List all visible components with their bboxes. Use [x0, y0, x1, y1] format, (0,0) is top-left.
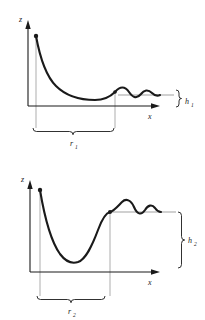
- z-axis-arrowhead-top: [25, 20, 30, 29]
- x-axis-arrowhead-bottom: [151, 269, 160, 274]
- h2-label: h: [188, 236, 192, 245]
- curve-top: [36, 36, 160, 100]
- h2-label-subscript: 2: [194, 241, 197, 247]
- start-point-marker-top: [34, 34, 38, 38]
- r2-label-subscript: 2: [73, 312, 76, 318]
- x-axis-arrowhead-top: [151, 103, 160, 108]
- panel-top: z x h 1 r 1: [18, 15, 194, 150]
- h2-brace: [178, 212, 185, 268]
- z-axis-arrowhead-bottom: [27, 180, 32, 189]
- r2-brace: [37, 296, 105, 303]
- h1-label: h: [185, 97, 189, 106]
- r1-label-subscript: 1: [75, 144, 78, 150]
- r1-brace: [33, 128, 114, 135]
- two-panel-figure: z x h 1 r 1 z x: [0, 0, 205, 320]
- r2-label: r: [68, 307, 72, 316]
- oscillation-onset-marker-bottom: [108, 210, 112, 214]
- start-point-marker-bottom: [38, 188, 42, 192]
- curve-bottom: [40, 190, 161, 263]
- h1-label-subscript: 1: [191, 102, 194, 108]
- panel-bottom: z x h 2 r 2: [20, 175, 197, 318]
- h1-brace: [176, 90, 182, 107]
- oscillation-onset-marker-top: [113, 90, 117, 94]
- z-axis-label-top: z: [18, 15, 23, 24]
- r1-label: r: [70, 139, 74, 148]
- x-axis-label-bottom: x: [147, 278, 152, 287]
- x-axis-label-top: x: [147, 112, 152, 121]
- z-axis-label-bottom: z: [20, 175, 25, 184]
